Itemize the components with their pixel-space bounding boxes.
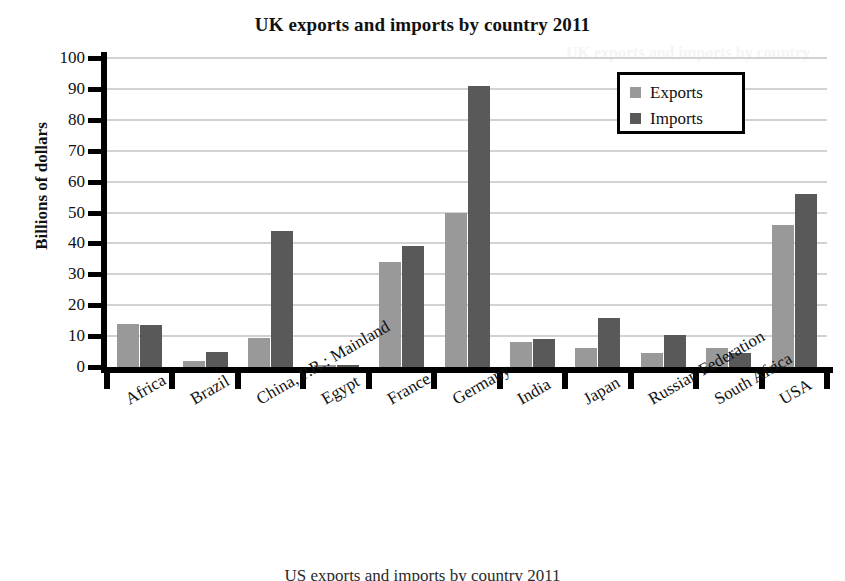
- bar-imports: [271, 231, 293, 367]
- legend-label-imports: Imports: [650, 110, 703, 127]
- x-axis-tick: [169, 373, 175, 389]
- bar-exports: [379, 262, 401, 367]
- x-axis-label: Africa: [122, 370, 170, 409]
- bar-imports: [664, 335, 686, 367]
- bar-imports: [468, 86, 490, 367]
- x-axis-label: Egypt: [318, 372, 363, 410]
- bar-imports: [533, 339, 555, 367]
- bar-exports: [510, 342, 532, 367]
- bar-imports: [598, 318, 620, 367]
- y-axis-tick-label: 0: [40, 358, 85, 375]
- bar-exports: [772, 225, 794, 367]
- legend-label-exports: Exports: [650, 84, 703, 101]
- y-axis-tick-label: 50: [40, 204, 85, 221]
- bar-exports: [445, 213, 467, 368]
- x-axis-label: USA: [776, 375, 815, 409]
- y-axis-tick-label: 90: [40, 80, 85, 97]
- y-axis-tick-label: 30: [40, 265, 85, 282]
- x-axis-tick: [562, 373, 568, 389]
- bottom-caption: US exports and imports by country 2011: [0, 566, 845, 581]
- gridline: [107, 57, 827, 59]
- bar-exports: [575, 348, 597, 367]
- y-axis-tick-label: 70: [40, 142, 85, 159]
- legend-swatch-exports-icon: [630, 87, 641, 98]
- watermark-ghost-text: UK exports and imports by country: [566, 44, 810, 62]
- legend-swatch-imports-icon: [630, 113, 641, 124]
- x-axis-label: India: [514, 375, 554, 410]
- y-axis-tick-label: 20: [40, 296, 85, 313]
- legend-item-exports: Exports: [630, 79, 742, 105]
- y-axis-tick-label: 80: [40, 111, 85, 128]
- bar-exports: [183, 361, 205, 367]
- x-axis-tick: [628, 373, 634, 389]
- y-axis-tick-label: 40: [40, 234, 85, 251]
- x-axis-label: Japan: [580, 373, 624, 410]
- x-axis-tick: [235, 373, 241, 389]
- y-axis-tick-label: 60: [40, 173, 85, 190]
- bar-exports: [248, 338, 270, 367]
- y-axis-tick-label: 100: [40, 49, 85, 66]
- chart-title: UK exports and imports by country 2011: [0, 14, 845, 36]
- bar-exports: [641, 353, 663, 367]
- chart-container: UK exports and imports by country UK exp…: [0, 0, 845, 581]
- legend-item-imports: Imports: [630, 105, 742, 131]
- bar-imports: [402, 246, 424, 367]
- bar-imports: [795, 194, 817, 367]
- x-axis-label: France: [384, 369, 434, 409]
- bar-imports: [206, 352, 228, 367]
- x-axis-tick: [366, 373, 372, 389]
- bar-imports: [140, 325, 162, 367]
- bar-imports: [337, 365, 359, 367]
- x-axis-label: Brazil: [187, 371, 233, 409]
- bar-exports: [117, 324, 139, 367]
- y-axis-tick-label: 10: [40, 327, 85, 344]
- x-axis-tick: [104, 373, 110, 389]
- chart-legend: Exports Imports: [617, 72, 745, 134]
- y-axis-line: [101, 52, 107, 373]
- x-axis-tick: [824, 373, 830, 389]
